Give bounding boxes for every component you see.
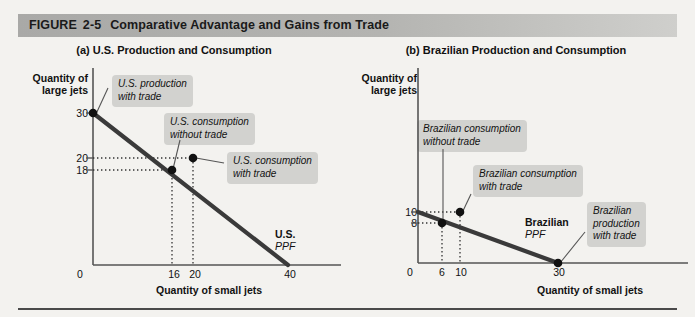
brazil-ppf-line bbox=[418, 212, 558, 263]
figure-label: FIGURE bbox=[29, 18, 77, 32]
panel-us-plot bbox=[8, 44, 343, 306]
figure-container: FIGURE2-5Comparative Advantage and Gains… bbox=[0, 0, 695, 317]
leader-us-production bbox=[96, 88, 108, 114]
point-us-production-with-trade bbox=[89, 109, 98, 118]
point-us-consumption-without-trade bbox=[168, 166, 177, 175]
figure-header-bar: FIGURE2-5Comparative Advantage and Gains… bbox=[18, 14, 677, 37]
panel-brazil: (b) Brazilian Production and Consumption… bbox=[345, 44, 690, 306]
leader-brazil-production-with-trade bbox=[560, 232, 585, 263]
point-brazil-consumption-without-trade bbox=[438, 219, 447, 228]
figure-title: Comparative Advantage and Gains from Tra… bbox=[110, 18, 389, 32]
figure-bottom-rule bbox=[18, 308, 677, 310]
figure-header-text: FIGURE2-5Comparative Advantage and Gains… bbox=[29, 18, 389, 32]
us-ppf-line bbox=[93, 113, 288, 265]
point-brazil-consumption-with-trade bbox=[456, 208, 465, 217]
leader-us-cons-with bbox=[196, 158, 224, 163]
figure-number: 2-5 bbox=[83, 18, 101, 32]
point-brazil-production-with-trade bbox=[554, 259, 563, 268]
panel-brazil-plot bbox=[345, 44, 690, 306]
point-us-consumption-with-trade bbox=[189, 154, 198, 163]
panel-us: (a) U.S. Production and Consumption Quan… bbox=[8, 44, 343, 306]
leader-us-cons-without bbox=[173, 140, 180, 169]
